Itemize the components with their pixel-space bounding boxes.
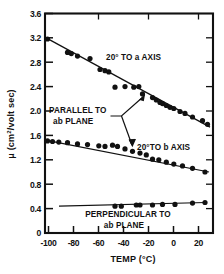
x-tick-labels: -100 -80 -60 -40 -20 0 20 — [40, 238, 203, 248]
y-tick-label: 2.4 — [30, 82, 42, 92]
data-point — [202, 169, 207, 174]
data-point — [172, 202, 177, 207]
y-tick-label: 0 — [37, 228, 42, 238]
data-point — [65, 140, 70, 145]
data-point — [115, 144, 120, 149]
x-axis-title-main: TEMP ( — [110, 254, 142, 264]
data-point — [56, 140, 61, 145]
data-point — [200, 118, 205, 123]
svg-text:μ (cm2/volt sec): μ (cm2/volt sec) — [6, 89, 17, 159]
parallel-label-leader-lines — [111, 95, 146, 148]
y-tick-label: 0.4 — [30, 204, 42, 214]
y-tick-label: 1.2 — [30, 155, 42, 165]
annotation-perpendicular-line2: ab PLANE — [104, 221, 145, 230]
y-tick-label: 2.8 — [30, 58, 42, 68]
leader-arrowhead — [129, 139, 136, 147]
y-tick-labels: 0 0.4 0.8 1.2 1.6 2.0 2.4 2.8 3.2 3.6 — [30, 9, 42, 238]
data-point — [119, 204, 124, 209]
data-point — [171, 106, 176, 111]
y-tick-label: 0.8 — [30, 180, 42, 190]
data-point — [160, 202, 165, 207]
data-point — [137, 202, 142, 207]
annotation-parallel-line1: PARALLEL TO — [49, 106, 107, 115]
data-point — [150, 202, 155, 207]
x-axis-title-unit: °C) — [142, 254, 156, 264]
y-tick-label: 2.0 — [30, 106, 42, 116]
data-point — [96, 143, 101, 148]
data-point — [164, 160, 169, 165]
x-tick-label: -80 — [68, 238, 80, 248]
x-tick-label: -40 — [118, 238, 130, 248]
data-point — [75, 141, 80, 146]
data-point — [45, 36, 50, 41]
data-point — [50, 139, 55, 144]
annotation-b-axis: 20°TO b AXIS — [137, 143, 191, 152]
data-point — [190, 201, 195, 206]
annotation-b-axis-text: 20°TO b AXIS — [137, 143, 191, 152]
annotation-parallel-line2: ab PLANE — [53, 117, 94, 126]
data-point — [85, 142, 90, 147]
data-point — [136, 84, 141, 89]
x-tick-label: -20 — [143, 238, 155, 248]
data-point — [150, 157, 155, 162]
data-point — [202, 200, 207, 205]
data-point — [122, 146, 127, 151]
data-point — [110, 143, 115, 148]
annotation-parallel-to-ab-plane: PARALLEL TO ab PLANE — [49, 106, 107, 126]
data-point — [180, 163, 185, 168]
x-tick-label: 0 — [171, 238, 176, 248]
y-axis-title-main: μ (cm — [6, 134, 16, 159]
series-perpendicular-to-ab-plane — [59, 200, 208, 209]
mobility-vs-temperature-chart: 0 0.4 0.8 1.2 1.6 2.0 2.4 2.8 3.2 3.6 -1… — [0, 0, 224, 274]
data-point — [75, 54, 80, 59]
data-point — [190, 166, 195, 171]
data-point — [45, 138, 50, 143]
y-tick-label: 3.2 — [30, 33, 42, 43]
data-point — [130, 149, 135, 154]
annotation-a-axis: 20° TO a AXIS — [106, 53, 162, 62]
data-point — [69, 51, 74, 56]
data-point — [102, 144, 107, 149]
data-point — [182, 111, 187, 116]
y-tick-label: 3.6 — [30, 9, 42, 19]
y-axis-title: μ (cm2/volt sec) — [6, 89, 17, 159]
x-tick-label: 20 — [194, 238, 203, 248]
data-point — [112, 85, 117, 90]
data-point — [190, 114, 195, 119]
data-point — [177, 109, 182, 114]
x-tick-label: -100 — [40, 238, 57, 248]
data-point — [122, 84, 127, 89]
svg-text:TEMP (°C): TEMP (°C) — [110, 254, 155, 264]
annotation-perpendicular-line1: PERPENDICULAR TO — [85, 210, 171, 219]
data-point — [112, 204, 117, 209]
data-point — [97, 67, 102, 72]
x-tick-label: -60 — [93, 238, 105, 248]
figure-container: 0 0.4 0.8 1.2 1.6 2.0 2.4 2.8 3.2 3.6 -1… — [0, 0, 224, 274]
data-point — [106, 69, 111, 74]
data-point — [171, 162, 176, 167]
y-tick-label: 1.6 — [30, 131, 42, 141]
data-point — [87, 56, 92, 61]
data-point — [205, 122, 210, 127]
data-point — [131, 85, 136, 90]
y-axis-title-tail: /volt sec) — [6, 89, 16, 130]
data-point — [156, 157, 161, 162]
y-axis-ticks — [45, 14, 53, 234]
data-point — [144, 152, 149, 157]
x-axis-title: TEMP (°C) — [110, 254, 155, 264]
annotation-a-axis-text: 20° TO a AXIS — [106, 53, 162, 62]
